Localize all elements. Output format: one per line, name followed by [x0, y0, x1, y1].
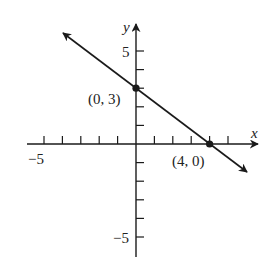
y-tick-label-neg5: −5 [113, 230, 129, 246]
y-tick-label-5: 5 [122, 44, 130, 60]
point-label-0-3: (0, 3) [88, 91, 121, 108]
x-axis-label: x [250, 125, 258, 141]
point-label-4-0: (4, 0) [172, 153, 205, 170]
coordinate-plane: x y −5 5 −5 (0, 3) (4, 0) [0, 0, 270, 263]
point-0-3 [132, 85, 139, 92]
y-axis-label: y [121, 19, 130, 35]
x-tick-label-neg5: −5 [28, 151, 44, 167]
point-4-0 [206, 140, 213, 147]
